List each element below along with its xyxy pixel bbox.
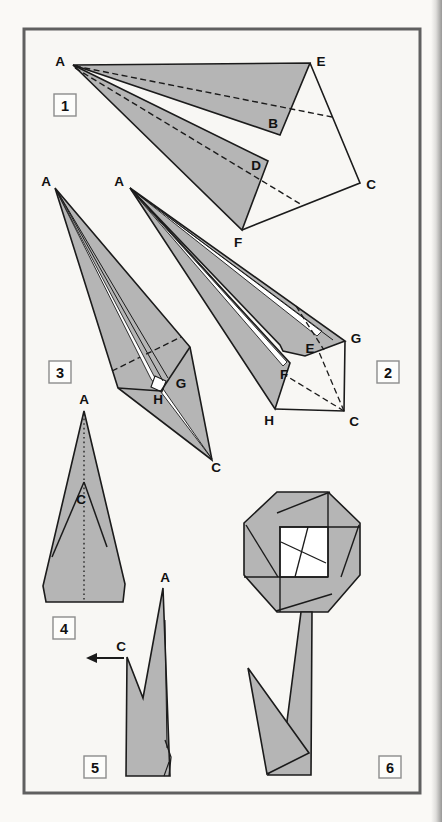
step3-label-H: H (153, 392, 163, 407)
step5-label-A: A (160, 570, 170, 585)
step2-label-C: C (349, 414, 359, 429)
step-number-1: 1 (61, 98, 69, 114)
step1-label-D: D (251, 158, 261, 173)
step-number-4: 4 (60, 621, 68, 637)
step2-label-E: E (305, 341, 314, 356)
step2-label-A: A (114, 174, 124, 189)
step2-label-G: G (351, 331, 362, 346)
step1-label-F: F (234, 235, 242, 250)
step3-label-C: C (211, 460, 221, 475)
step1-label-A: A (55, 54, 65, 69)
step5-label-C: C (116, 639, 126, 654)
step-number-5: 5 (91, 760, 99, 776)
diagram-canvas: AEBDCFAGEFHCAGHCACAC123456 (0, 0, 442, 822)
step1-label-E: E (316, 54, 325, 69)
origami-book-page: AEBDCFAGEFHCAGHCACAC123456 (0, 0, 442, 822)
step1-label-B: B (268, 116, 278, 131)
step4-label-A: A (79, 392, 89, 407)
step-number-6: 6 (386, 760, 394, 776)
step2-label-H: H (264, 413, 274, 428)
step3-label-A: A (41, 174, 51, 189)
step1-label-C: C (366, 177, 376, 192)
step3-label-G: G (176, 376, 187, 391)
step2-label-F: F (280, 367, 288, 382)
step-number-3: 3 (56, 365, 64, 381)
step4-label-C: C (76, 492, 86, 507)
step-number-2: 2 (384, 365, 392, 381)
step6-center (280, 527, 328, 577)
